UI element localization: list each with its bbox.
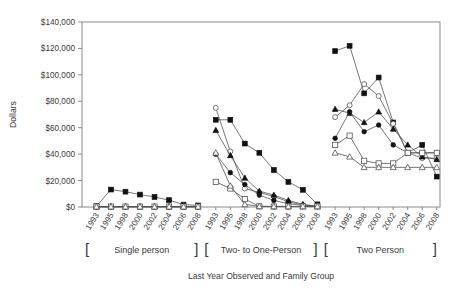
x-axis-tick-label: 2002 <box>142 211 160 232</box>
x-axis-tick-label: 2006 <box>410 211 428 232</box>
marker-filled-square <box>138 192 143 197</box>
y-axis-tick-label: $40,000 <box>45 150 75 159</box>
x-axis-tick-label: 2008 <box>185 211 203 232</box>
marker-open-square <box>420 150 425 155</box>
y-axis-tick-label: $120,000 <box>41 44 76 53</box>
group-bracket-close: ] <box>313 240 317 257</box>
group-bracket-close: ] <box>194 240 198 257</box>
group-label: Single person <box>114 245 169 255</box>
marker-filled-triangle <box>376 109 382 114</box>
marker-filled-square <box>152 195 157 200</box>
marker-filled-square <box>109 187 114 192</box>
marker-filled-square <box>376 75 381 80</box>
marker-filled-circle <box>257 193 262 198</box>
y-axis-tick-label: $20,000 <box>45 177 75 186</box>
marker-open-square <box>362 158 367 163</box>
line-chart-plot: $0$20,000$40,000$60,000$80,000$100,000$1… <box>0 0 465 292</box>
y-axis-tick-label: $100,000 <box>41 71 76 80</box>
y-axis-tick-label: $140,000 <box>41 18 76 27</box>
marker-open-triangle <box>332 150 338 155</box>
marker-filled-square <box>242 141 247 146</box>
x-axis-tick-label: 2002 <box>381 211 399 232</box>
chart-container: $0$20,000$40,000$60,000$80,000$100,000$1… <box>0 0 465 292</box>
marker-filled-triangle <box>213 127 219 132</box>
x-axis-tick-label: 1998 <box>113 211 131 232</box>
marker-filled-circle <box>347 110 352 115</box>
x-axis-tick-label: 2000 <box>247 211 265 232</box>
marker-filled-circle <box>376 123 381 128</box>
marker-open-circle <box>376 94 381 99</box>
x-axis-tick-label: 2004 <box>276 211 294 232</box>
x-axis-tick-label: 1993 <box>323 211 341 232</box>
x-axis-tick-label: 1998 <box>232 211 250 232</box>
marker-open-circle <box>213 105 218 110</box>
marker-filled-triangle <box>361 119 367 124</box>
x-axis-tick-label: 2008 <box>305 211 323 232</box>
x-axis-tick-label: 2004 <box>156 211 174 232</box>
marker-open-square <box>347 133 352 138</box>
x-axis-tick-label: 2002 <box>261 211 279 232</box>
marker-open-square <box>434 150 439 155</box>
marker-filled-square <box>286 179 291 184</box>
group-label: Two Person <box>357 245 405 255</box>
x-axis-tick-label: 1995 <box>337 211 355 232</box>
marker-filled-square <box>228 117 233 122</box>
x-axis-tick-label: 2006 <box>290 211 308 232</box>
marker-filled-circle <box>272 198 277 203</box>
y-axis-title: Dollars <box>8 101 18 128</box>
x-axis-tick-label: 2004 <box>395 211 413 232</box>
marker-open-square <box>405 150 410 155</box>
marker-filled-circle <box>362 129 367 134</box>
marker-filled-square <box>257 150 262 155</box>
group-label: Two- to One-Person <box>221 245 302 255</box>
marker-open-circle <box>333 115 338 120</box>
y-axis-tick-label: $0 <box>66 203 76 212</box>
x-axis-tick-label: 2006 <box>171 211 189 232</box>
marker-open-square <box>213 179 218 184</box>
x-axis-tick-label: 1993 <box>84 211 102 232</box>
marker-filled-square <box>300 187 305 192</box>
marker-filled-square <box>420 142 425 147</box>
marker-filled-circle <box>243 182 248 187</box>
y-axis-tick-label: $80,000 <box>45 97 75 106</box>
x-axis-tick-label: 1995 <box>98 211 116 232</box>
marker-filled-circle <box>333 136 338 141</box>
group-bracket-close: ] <box>433 240 437 257</box>
marker-filled-circle <box>391 143 396 148</box>
marker-open-circle <box>362 82 367 87</box>
marker-filled-square <box>123 189 128 194</box>
marker-open-circle <box>347 103 352 108</box>
x-axis-title: Last Year Observed and Family Group <box>188 271 334 281</box>
plot-frame <box>82 22 440 207</box>
marker-filled-triangle <box>332 106 338 111</box>
marker-filled-square <box>167 198 172 203</box>
x-axis-tick-label: 1998 <box>352 211 370 232</box>
group-bracket-open: [ <box>85 240 90 257</box>
marker-open-square <box>333 142 338 147</box>
marker-filled-square <box>271 168 276 173</box>
x-axis-tick-label: 2008 <box>424 211 442 232</box>
x-axis-tick-label: 1995 <box>218 211 236 232</box>
marker-filled-circle <box>228 170 233 175</box>
marker-filled-square <box>213 117 218 122</box>
marker-open-triangle <box>213 150 219 155</box>
group-bracket-open: [ <box>324 240 329 257</box>
x-axis-tick-label: 1993 <box>203 211 221 232</box>
marker-filled-square <box>333 49 338 54</box>
marker-filled-square <box>362 91 367 96</box>
marker-filled-triangle <box>242 175 248 180</box>
marker-filled-square <box>434 174 439 179</box>
marker-open-triangle <box>227 183 233 188</box>
x-axis-tick-label: 2000 <box>127 211 145 232</box>
marker-filled-square <box>347 43 352 48</box>
group-bracket-open: [ <box>204 240 209 257</box>
x-axis-tick-label: 2000 <box>366 211 384 232</box>
y-axis-tick-label: $60,000 <box>45 124 75 133</box>
